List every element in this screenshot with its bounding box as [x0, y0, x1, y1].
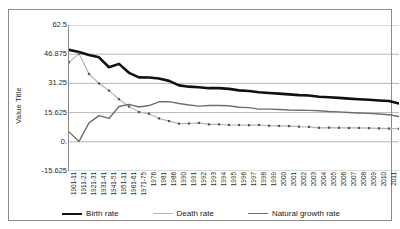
x-axis-tick-label: 1986	[170, 172, 177, 186]
legend-label: Birth rate	[86, 209, 118, 218]
data-point-marker	[278, 125, 280, 127]
x-axis-tick-label: 2011	[390, 172, 397, 186]
x-axis-tick-label: 1981	[160, 172, 167, 186]
x-axis-tick-label: 1990	[180, 172, 187, 186]
x-axis-tick-label: 2007	[350, 172, 357, 186]
data-point-marker	[308, 126, 310, 128]
x-axis-tick-label: 1992	[200, 172, 207, 186]
x-axis-tick-label: 2001	[290, 172, 297, 186]
data-point-marker	[188, 122, 190, 124]
data-point-marker	[338, 127, 340, 129]
y-axis-title-label: Value Title	[14, 87, 23, 124]
x-axis-tick-label: 2002	[300, 172, 307, 186]
data-point-marker	[218, 123, 220, 125]
data-point-marker	[158, 117, 160, 119]
data-point-marker	[98, 82, 100, 84]
x-axis-tick-label: 2010	[380, 172, 387, 186]
legend-line-swatch	[153, 213, 173, 214]
data-point-marker	[198, 122, 200, 124]
data-point-marker	[238, 124, 240, 126]
x-axis-tick-label: 2005	[330, 172, 337, 186]
x-axis-tick-label: 2008	[360, 172, 367, 186]
data-point-marker	[248, 124, 250, 126]
chart-legend: Birth rateDeath rateNatural growth rate	[9, 206, 393, 221]
data-point-marker	[328, 127, 330, 129]
data-point-marker	[388, 127, 390, 129]
x-axis-tick-label: 1993	[210, 172, 217, 186]
data-point-marker	[268, 125, 270, 127]
y-axis-tick-label: 46.875	[27, 50, 67, 58]
data-point-marker	[298, 126, 300, 128]
x-axis-tick-label: 2003	[310, 172, 317, 186]
data-point-marker	[208, 123, 210, 125]
x-axis-tick-label: 1996	[240, 172, 247, 186]
legend-line-swatch	[248, 213, 268, 214]
legend-line-swatch	[62, 213, 82, 215]
x-axis-tick-label: 1997	[250, 172, 257, 186]
data-point-marker	[178, 123, 180, 125]
data-point-marker	[108, 89, 110, 91]
data-point-marker	[228, 124, 230, 126]
x-axis-tick-label: 2006	[340, 172, 347, 186]
x-axis-tick-label: 1994	[220, 172, 227, 186]
x-axis-tick-label: 1961-61	[130, 172, 137, 195]
x-axis-tick-label: 1921-31	[90, 172, 97, 195]
data-point-marker	[348, 127, 350, 129]
x-axis-tick-label: 1998	[260, 172, 267, 186]
data-point-marker	[358, 127, 360, 129]
x-axis-tick-label: 2000	[280, 172, 287, 186]
series-line	[69, 50, 399, 104]
legend-item[interactable]: Death rate	[153, 209, 214, 218]
x-axis-tick-label: 1995	[230, 172, 237, 186]
x-axis-tick-label: 1999	[270, 172, 277, 186]
data-point-marker	[318, 127, 320, 129]
x-axis-tick-label: 1976	[150, 172, 157, 186]
data-point-marker	[78, 52, 80, 54]
legend-item[interactable]: Birth rate	[62, 209, 118, 218]
data-point-marker	[148, 113, 150, 115]
x-axis-tick-label: 1901-11	[70, 172, 77, 195]
y-axis-tick-labels: 62.546.87531.2515.6250.-15.625	[23, 10, 67, 222]
y-axis-tick-label: 62.5	[27, 21, 67, 29]
data-point-marker	[88, 73, 90, 75]
y-axis-tick-label: 31.25	[27, 79, 67, 87]
legend-label: Death rate	[177, 209, 214, 218]
series-line	[69, 102, 399, 142]
chart-plot-svg	[69, 25, 399, 171]
x-axis-tick-label: 1931-41	[100, 172, 107, 195]
data-point-marker	[288, 125, 290, 127]
plot-area	[68, 25, 398, 171]
y-axis-tick-label: -15.625	[27, 167, 67, 175]
chart-container: Value Title 62.546.87531.2515.6250.-15.6…	[8, 9, 392, 221]
x-axis-tick-label: 2009	[370, 172, 377, 186]
x-axis-tick-label: 1971-75	[140, 172, 147, 195]
x-axis-tick-label: 1951-11	[120, 172, 127, 195]
legend-item[interactable]: Natural growth rate	[248, 209, 340, 218]
x-axis-tick-label: 1941-51	[110, 172, 117, 195]
y-axis-tick-label: 0.	[27, 138, 67, 146]
series-lines	[69, 50, 399, 142]
legend-label: Natural growth rate	[272, 209, 340, 218]
data-point-marker	[168, 120, 170, 122]
data-point-marker	[378, 127, 380, 129]
y-axis-tick-label: 15.625	[27, 109, 67, 117]
data-point-marker	[128, 105, 130, 107]
data-point-marker	[118, 98, 120, 100]
data-point-marker	[258, 124, 260, 126]
data-point-marker	[368, 127, 370, 129]
x-axis-tick-label: 1911-21	[80, 172, 87, 195]
x-axis-tick-label: 1991	[190, 172, 197, 186]
data-point-marker	[398, 128, 399, 130]
data-point-marker	[69, 61, 70, 63]
x-axis-tick-label: 2004	[320, 172, 327, 186]
data-point-marker	[138, 111, 140, 113]
